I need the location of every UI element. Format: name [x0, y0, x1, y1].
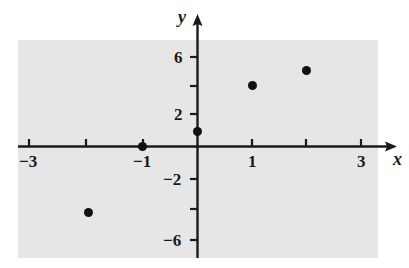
- data-point: [84, 208, 93, 217]
- y-tick-label-6: 6: [174, 49, 183, 66]
- x-axis-label: x: [393, 150, 402, 168]
- x-tick-label-3: 3: [357, 153, 366, 170]
- x-tick-label--3: −3: [19, 153, 37, 170]
- axes-layer: [0, 0, 409, 268]
- data-point: [248, 81, 257, 90]
- y-tick-label--2: −2: [163, 171, 181, 188]
- x-tick-label-1: 1: [248, 153, 257, 170]
- y-axis-label: y: [178, 8, 186, 26]
- y-tick-label--6: −6: [163, 232, 181, 249]
- y-axis: [190, 14, 203, 258]
- scatter-plot-figure: −3 −1 1 3 6 2 −2 −6 y x: [0, 0, 409, 268]
- x-tick-label--1: −1: [133, 153, 151, 170]
- x-axis: [18, 139, 397, 152]
- y-tick-label-2: 2: [174, 106, 183, 123]
- data-point: [193, 127, 202, 136]
- data-point: [302, 66, 311, 75]
